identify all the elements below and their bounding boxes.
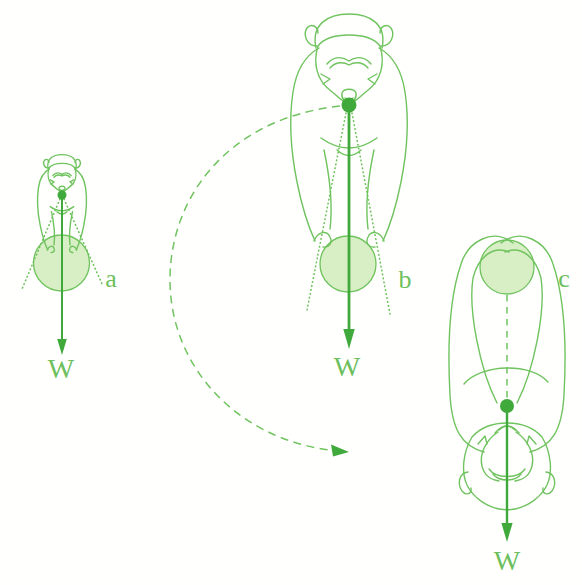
rotation-arc bbox=[170, 106, 349, 457]
right-ear-icon bbox=[543, 472, 555, 494]
head-rotation-arrow-right-icon bbox=[527, 436, 536, 444]
diagram-page: W a W b bbox=[0, 0, 582, 585]
cheek-line-left bbox=[481, 432, 499, 481]
panel-label-c: c bbox=[558, 264, 570, 293]
rotation-arc-path bbox=[170, 106, 340, 450]
center-of-gravity-dot-c bbox=[500, 399, 514, 413]
panel-b: W b bbox=[291, 14, 412, 382]
weight-label-a: W bbox=[48, 353, 75, 384]
panel-c: W c bbox=[449, 236, 570, 576]
weight-vector-arrowhead-b bbox=[343, 329, 354, 349]
weight-label-c: W bbox=[494, 545, 521, 576]
weight-vector-arrowhead-c bbox=[501, 523, 512, 542]
panel-label-b: b bbox=[399, 265, 412, 294]
panel-a: W a bbox=[22, 155, 117, 384]
panel-label-a: a bbox=[105, 264, 117, 293]
left-ear-icon bbox=[459, 472, 471, 494]
head-rotation-arrow-left-icon bbox=[478, 436, 487, 444]
shoulder-arc bbox=[464, 368, 548, 384]
cheek-line-right bbox=[515, 432, 533, 481]
rotation-arc-arrowhead-icon bbox=[331, 445, 349, 457]
weight-label-b: W bbox=[334, 351, 361, 382]
monkey-balance-diagram: W a W b bbox=[0, 0, 582, 585]
center-of-gravity-dot-a bbox=[58, 191, 67, 200]
center-of-gravity-dot-b bbox=[342, 98, 357, 113]
branch-cross-section-c bbox=[480, 240, 534, 294]
